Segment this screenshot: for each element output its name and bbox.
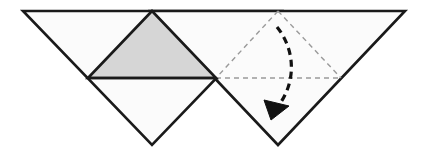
diagram-canvas: [0, 0, 422, 165]
origami-diagram-figure: [0, 0, 422, 165]
